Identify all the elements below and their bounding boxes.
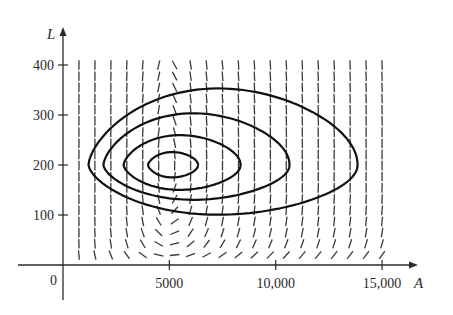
slope-segment: [158, 60, 160, 69]
y-tick-label: 300: [33, 108, 54, 123]
slope-segment: [222, 217, 224, 226]
slope-segment: [318, 194, 319, 204]
slope-segment: [222, 60, 223, 70]
slope-segment: [94, 250, 96, 259]
slope-segment: [270, 71, 271, 81]
y-tick-label: 100: [33, 208, 54, 223]
direction-field-chart: 500010,00015,000 100200300400 A L 0: [0, 0, 453, 315]
slope-segment: [238, 71, 239, 81]
slope-segment: [349, 228, 351, 238]
slope-segment: [205, 217, 208, 226]
slope-segment: [172, 72, 177, 81]
slope-segment: [222, 94, 223, 104]
x-axis-arrow-icon: [409, 262, 418, 269]
slope-segment: [350, 206, 351, 216]
slope-segment: [238, 94, 239, 104]
slope-segment: [170, 243, 179, 245]
slope-segment: [254, 194, 255, 204]
slope-segment: [156, 217, 161, 225]
slope-segment: [334, 206, 335, 216]
origin-label: 0: [50, 273, 57, 288]
slope-segment: [221, 228, 224, 237]
slope-segment: [173, 116, 176, 125]
slope-segment: [158, 105, 160, 114]
slope-segment: [270, 194, 271, 204]
x-tick-label: 10,000: [256, 276, 295, 291]
slope-segment: [286, 60, 287, 70]
slope-segment: [190, 71, 191, 81]
slope-segment: [299, 251, 305, 258]
slope-segment: [170, 255, 180, 256]
slope-segment: [154, 254, 163, 256]
slope-segment: [206, 116, 207, 126]
slope-segment: [155, 242, 163, 247]
slope-segment: [173, 105, 177, 114]
slope-segment: [236, 240, 240, 249]
slope-segment: [365, 228, 367, 238]
slope-segment: [206, 71, 207, 81]
slope-segment: [254, 206, 255, 216]
slope-segment: [111, 217, 112, 227]
slope-segment: [170, 231, 179, 235]
slope-segment: [190, 183, 191, 193]
slope-segment: [270, 60, 271, 70]
slope-segment: [270, 217, 271, 227]
slope-segment: [301, 228, 303, 238]
slope-segment: [124, 251, 130, 259]
slope-segment: [143, 183, 144, 193]
slope-segment: [286, 194, 287, 204]
slope-segment: [206, 83, 207, 93]
slope-segment: [110, 239, 112, 249]
slope-segment: [317, 228, 319, 238]
slope-segment: [142, 206, 143, 216]
y-axis-arrow-icon: [60, 27, 67, 36]
slope-segment: [202, 253, 210, 258]
slope-segment: [318, 217, 319, 227]
slope-segment: [173, 94, 177, 103]
slope-segment: [238, 60, 239, 70]
slope-segment: [238, 217, 240, 227]
slope-segment: [254, 60, 255, 70]
slope-segment: [331, 251, 337, 259]
slope-segment: [126, 217, 127, 227]
slope-segment: [302, 206, 303, 216]
slope-segment: [142, 217, 144, 226]
slope-segment: [142, 60, 143, 70]
slope-segment: [350, 217, 351, 227]
slope-segment: [349, 239, 352, 248]
x-tick-label: 5000: [155, 276, 183, 291]
slope-segment: [222, 194, 223, 204]
trajectory-orbit-3: [103, 113, 289, 200]
slope-segment: [254, 83, 255, 93]
slope-segment: [95, 239, 96, 249]
slope-segment: [190, 116, 191, 126]
slope-segment: [238, 105, 239, 115]
slope-segment: [347, 251, 353, 259]
slope-segment: [206, 94, 207, 104]
y-tick-label: 400: [33, 58, 54, 73]
slope-segment: [172, 61, 177, 69]
slope-segment: [158, 139, 159, 149]
slope-segment: [143, 94, 144, 104]
slope-segment: [158, 127, 159, 137]
slope-segment: [171, 219, 179, 225]
slope-segment: [190, 138, 191, 148]
slope-segment: [333, 239, 336, 248]
slope-segment: [253, 239, 257, 248]
x-tick-label: 15,000: [363, 276, 402, 291]
slope-segment: [366, 217, 367, 227]
slope-segment: [269, 239, 273, 248]
slope-segment: [127, 206, 128, 216]
slope-segment: [155, 229, 162, 236]
slope-segment: [190, 60, 192, 69]
slope-segment: [286, 217, 287, 227]
slope-segment: [283, 252, 290, 259]
slope-segment: [254, 217, 256, 227]
slope-segment: [285, 239, 288, 248]
slope-segment: [222, 71, 223, 81]
slope-segment: [286, 71, 287, 81]
slope-segment: [125, 239, 128, 248]
slope-segment: [173, 83, 177, 92]
slope-segment: [222, 83, 223, 93]
slope-segment: [173, 183, 176, 192]
